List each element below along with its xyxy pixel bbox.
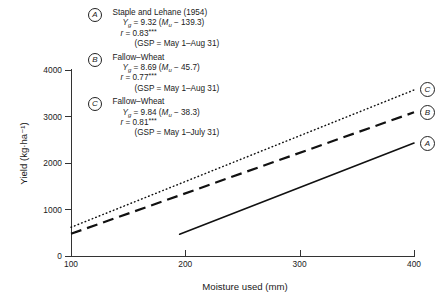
series-line-b — [71, 112, 414, 233]
series-line-a — [180, 143, 414, 234]
series-line-c — [71, 90, 414, 227]
end-marker-a-icon: A — [420, 136, 435, 151]
end-marker-b-icon: B — [420, 105, 435, 120]
plot-area — [0, 0, 440, 307]
figure-container: A Staple and Lehane (1954) Yg = 9.32 (Mu… — [0, 0, 440, 307]
